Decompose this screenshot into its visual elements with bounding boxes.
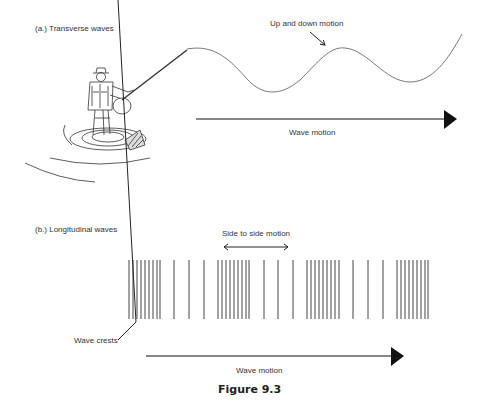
panel-b-label: (b.) Longitudinal waves	[35, 225, 117, 234]
fisherman-illustration	[25, 68, 150, 182]
panel-a-label: (a.) Transverse waves	[35, 24, 114, 33]
wave-motion-label-b: Wave motion	[236, 366, 282, 375]
wave-crests-pointer-line	[118, 322, 136, 340]
up-down-pointer-arrow	[310, 32, 325, 45]
wave-motion-label-a: Wave motion	[289, 128, 335, 137]
wave-motion-arrow-a	[196, 110, 457, 129]
side-to-side-motion-label: Side to side motion	[222, 229, 290, 238]
transverse-wave	[187, 34, 462, 92]
wave-motion-arrow-b	[146, 347, 404, 366]
up-down-motion-label: Up and down motion	[270, 19, 343, 28]
diagram-canvas	[0, 0, 485, 407]
wave-crests-label: Wave crests	[74, 336, 118, 345]
fishing-rod	[122, 50, 187, 100]
side-to-side-double-arrow	[224, 244, 288, 250]
longitudinal-wave-lines	[129, 260, 428, 319]
figure-caption: Figure 9.3	[218, 383, 281, 396]
